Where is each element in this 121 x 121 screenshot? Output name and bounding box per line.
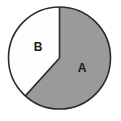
pie-chart-svg: A B — [0, 0, 121, 121]
pie-chart-figure: A B — [0, 0, 121, 121]
pie-slice-a-label: A — [78, 61, 87, 75]
pie-slice-b-label: B — [34, 40, 43, 54]
